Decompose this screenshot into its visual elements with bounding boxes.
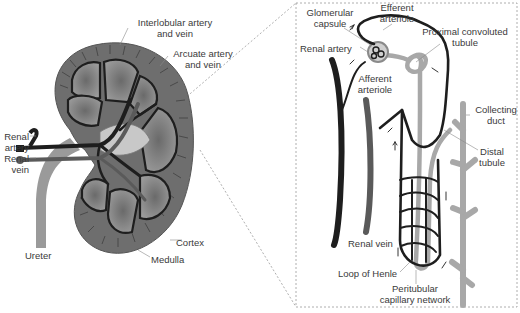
label-line-2: capsule (300, 18, 360, 29)
label-line-2: and vein (168, 59, 238, 70)
label-line-2: duct (473, 115, 519, 126)
label-afferent-arteriole: Afferentarteriole (352, 73, 398, 95)
label-renal-vein: Renalvein (1, 153, 29, 175)
label-glomerular-capsule: Glomerularcapsule (300, 7, 360, 29)
label-efferent-arteriole: Efferentarteriole (372, 2, 422, 24)
label-line-1: Proximal convoluted (415, 26, 515, 37)
label-line-1: Renal (1, 153, 29, 164)
label-line-1: Cortex (176, 237, 216, 248)
label-line-2: and vein (130, 28, 220, 39)
label-collecting-duct: Collectingduct (473, 104, 519, 126)
label-arcuate: Arcuate arteryand vein (168, 48, 238, 70)
label-medulla: Medulla (151, 254, 196, 265)
label-peritubular: Peritubularcapillary network (370, 283, 460, 305)
nephron-detail (332, 15, 475, 305)
label-interlobular: Interlobular arteryand vein (130, 17, 220, 39)
label-renal-vein-n: Renal vein (348, 238, 408, 249)
label-renal-artery: Renalartery (1, 131, 29, 153)
label-proximal-tubule: Proximal convolutedtubule (415, 26, 515, 48)
label-distal-tubule: Distaltubule (472, 146, 512, 168)
label-line-2: capillary network (370, 294, 460, 305)
label-line-1: Medulla (151, 254, 196, 265)
renal-vein-vessel (366, 100, 371, 232)
label-line-2: vein (1, 164, 29, 175)
label-line-2: artery (1, 142, 29, 153)
label-line-1: Distal (472, 146, 512, 157)
label-line-1: Ureter (25, 250, 65, 261)
label-line-1: Arcuate artery (168, 48, 238, 59)
label-line-1: Glomerular (300, 7, 360, 18)
label-line-2: arteriole (372, 13, 422, 24)
label-line-1: Renal vein (348, 238, 408, 249)
label-line-1: Collecting (473, 104, 519, 115)
kidney-nephron-diagram: Interlobular arteryand veinArcuate arter… (0, 0, 520, 313)
label-renal-artery-n: Renal artery (300, 43, 360, 54)
label-line-2: arteriole (352, 84, 398, 95)
label-line-1: Loop of Henle (338, 268, 418, 279)
label-cortex: Cortex (176, 237, 216, 248)
label-line-1: Efferent (372, 2, 422, 13)
ureter-shape (36, 138, 80, 248)
label-line-1: Renal (1, 131, 29, 142)
label-line-2: tubule (415, 37, 515, 48)
collecting-duct-shape (452, 104, 475, 305)
label-line-1: Afferent (352, 73, 398, 84)
renal-artery-vessel (332, 60, 342, 245)
label-loop-of-henle: Loop of Henle (338, 268, 418, 279)
label-line-1: Renal artery (300, 43, 360, 54)
label-line-2: tubule (472, 157, 512, 168)
label-line-1: Interlobular artery (130, 17, 220, 28)
label-ureter: Ureter (25, 250, 65, 261)
label-line-1: Peritubular (370, 283, 460, 294)
